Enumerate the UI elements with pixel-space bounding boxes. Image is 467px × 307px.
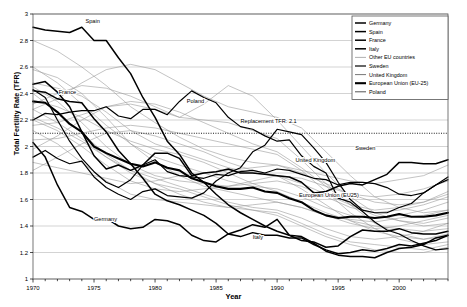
line-chart-svg: 11.21.41.61.822.22.42.62.831970197519801… [0, 0, 467, 307]
y-tick-label: 1 [25, 276, 29, 282]
annotation-label: France [59, 89, 76, 95]
chart-annotation: PolandPoland [187, 98, 204, 104]
legend-item-label: Italy [369, 46, 379, 52]
legend-item-label: Spain [369, 29, 383, 35]
legend-item-label: Sweden [369, 63, 388, 69]
y-tick-label: 2.6 [20, 64, 29, 70]
legend-item-label: France [369, 37, 386, 43]
annotation-label: European Union (EU25) [299, 192, 359, 198]
chart-annotation: GermanyGermany [94, 216, 117, 222]
y-tick-label: 2.8 [20, 38, 29, 44]
series-line [33, 143, 448, 248]
chart-annotation: United KingdomUnited Kingdom [295, 157, 335, 163]
series-line [33, 90, 448, 196]
y-tick-label: 1.4 [20, 223, 29, 229]
legend-item-label: European Union (EU-25) [369, 80, 429, 86]
x-tick-label: 1975 [87, 285, 101, 291]
annotations-layer: SpainSpainFranceFrancePolandPolandReplac… [59, 18, 376, 240]
chart-annotation: European Union (EU25)European Union (EU2… [299, 192, 359, 198]
y-tick-label: 2.4 [20, 91, 29, 97]
annotation-label: Italy [253, 234, 263, 240]
legend-item-label: Other EU countries [369, 54, 415, 60]
y-tick-label: 1.6 [20, 197, 29, 203]
legend-item-label: Poland [369, 89, 386, 95]
y-tick-label: 2.2 [20, 117, 29, 123]
annotation-label: Replacement TFR: 2.1 [241, 118, 297, 124]
chart-root: Total Fertility Rate (TFR) Year 11.21.41… [0, 0, 467, 307]
chart-annotation: SwedenSweden [355, 145, 375, 151]
annotation-label: Sweden [355, 145, 375, 151]
x-tick-label: 1980 [148, 285, 162, 291]
chart-annotation: SpainSpain [85, 18, 99, 24]
series-line [33, 120, 448, 197]
x-tick-label: 1985 [209, 285, 223, 291]
series-line [33, 131, 448, 229]
chart-annotation: Replacement TFR: 2.1Replacement TFR: 2.1 [241, 118, 297, 124]
x-tick-label: 1970 [26, 285, 40, 291]
series-line [33, 129, 448, 212]
y-tick-label: 2 [25, 144, 29, 150]
x-tick-label: 1990 [270, 285, 284, 291]
annotation-label: Poland [187, 98, 204, 104]
chart-annotation: ItalyItaly [253, 234, 263, 240]
y-tick-label: 3 [25, 11, 29, 17]
legend: GermanySpainFranceItalyOther EU countrie… [352, 16, 448, 99]
annotation-label: Germany [94, 216, 117, 222]
chart-annotation: FranceFrance [59, 89, 76, 95]
annotation-label: United Kingdom [295, 157, 335, 163]
x-tick-label: 2000 [392, 285, 406, 291]
legend-item-label: United Kingdom [369, 72, 408, 78]
annotation-label: Spain [85, 18, 99, 24]
legend-item-label: Germany [369, 20, 391, 26]
y-tick-label: 1.2 [20, 250, 29, 256]
y-tick-label: 1.8 [20, 170, 29, 176]
x-tick-label: 1995 [331, 285, 345, 291]
